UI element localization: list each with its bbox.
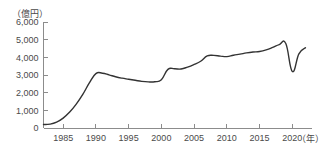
chart-container: 01,0002,0003,0004,0005,0006,000 19851990…	[0, 0, 329, 156]
series-line-0	[44, 41, 306, 124]
x-tick-label: 2005	[184, 133, 204, 143]
y-tick-label: 0	[33, 123, 38, 133]
y-tick-label: 1,000	[16, 106, 39, 116]
x-axis-unit-label: （年）	[297, 133, 324, 144]
y-tick-label: 2,000	[16, 88, 39, 98]
y-tick-label: 5,000	[16, 35, 39, 45]
y-axis-unit-label: （億円）	[12, 8, 48, 19]
x-tick-label: 1985	[53, 133, 73, 143]
y-tick-label: 4,000	[16, 53, 39, 63]
x-tick-label: 1995	[119, 133, 139, 143]
y-axis-ticks: 01,0002,0003,0004,0005,0006,000	[16, 17, 48, 133]
series-group	[44, 41, 306, 124]
x-axis-ticks: 19851990199520002005201020152020	[53, 124, 302, 143]
x-tick-label: 2000	[151, 133, 171, 143]
axis-group	[44, 22, 313, 128]
line-chart: 01,0002,0003,0004,0005,0006,000 19851990…	[0, 0, 329, 156]
y-tick-label: 3,000	[16, 70, 39, 80]
x-tick-label: 1990	[86, 133, 106, 143]
x-tick-label: 2015	[250, 133, 270, 143]
x-tick-label: 2010	[217, 133, 237, 143]
